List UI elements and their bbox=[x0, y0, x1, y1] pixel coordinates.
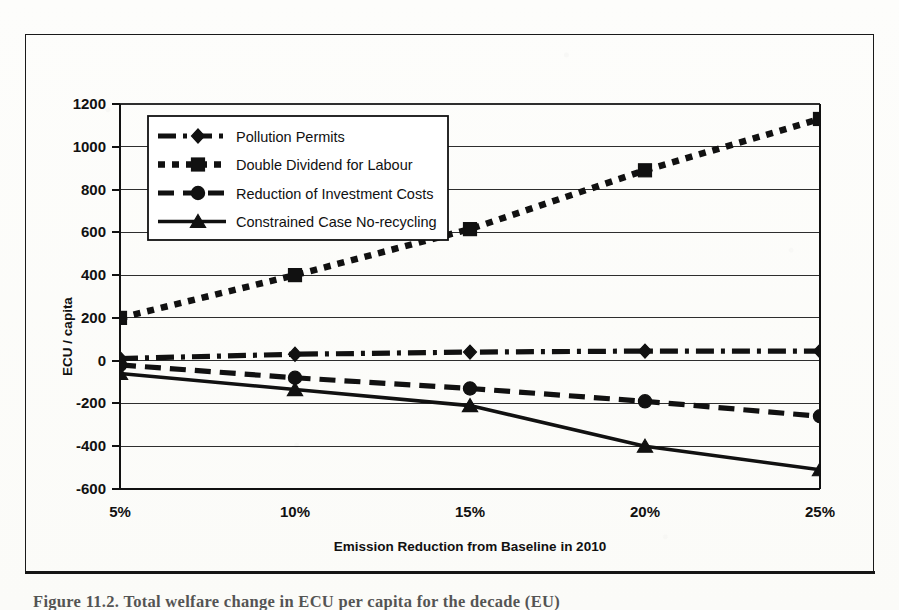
x-axis-title: Emission Reduction from Baseline in 2010 bbox=[334, 539, 606, 554]
data-point-2-2 bbox=[463, 382, 476, 395]
x-tick-label: 10% bbox=[280, 503, 310, 520]
data-point-1-3 bbox=[639, 164, 652, 177]
data-point-2-4 bbox=[813, 410, 826, 423]
legend-label-3: Constrained Case No-recycling bbox=[236, 214, 437, 230]
legend-marker-2 bbox=[191, 186, 204, 199]
x-axis-ticks: 5%10%15%20%25% bbox=[109, 503, 835, 520]
data-point-0-1 bbox=[289, 347, 302, 361]
data-point-1-2 bbox=[464, 223, 477, 236]
data-point-0-3 bbox=[639, 344, 652, 358]
data-point-2-3 bbox=[638, 395, 651, 408]
y-tick-label: 200 bbox=[81, 309, 106, 326]
figure-caption: Figure 11.2. Total welfare change in ECU… bbox=[33, 592, 883, 610]
legend-label-1: Double Dividend for Labour bbox=[236, 157, 413, 173]
y-tick-label: -200 bbox=[76, 394, 106, 411]
x-tick-label: 5% bbox=[109, 503, 131, 520]
y-tick-label: 800 bbox=[81, 181, 106, 198]
y-axis-title: ECU / capita bbox=[60, 297, 75, 376]
y-tick-label: 1000 bbox=[73, 138, 106, 155]
data-point-0-2 bbox=[464, 345, 477, 359]
y-tick-label: 0 bbox=[98, 352, 106, 369]
legend-marker-1 bbox=[192, 158, 205, 171]
line-chart-svg: 120010008006004002000-200-400-600 5%10%1… bbox=[0, 0, 899, 610]
chart-legend: Pollution PermitsDouble Dividend for Lab… bbox=[148, 116, 448, 240]
y-tick-label: -600 bbox=[76, 480, 106, 497]
x-tick-label: 25% bbox=[805, 503, 835, 520]
data-point-1-1 bbox=[289, 269, 302, 282]
x-tick-label: 20% bbox=[630, 503, 660, 520]
y-tick-label: 600 bbox=[81, 223, 106, 240]
y-tick-label: 400 bbox=[81, 266, 106, 283]
legend-label-0: Pollution Permits bbox=[236, 129, 345, 145]
data-point-1-4 bbox=[814, 112, 827, 125]
x-tick-label: 15% bbox=[455, 503, 485, 520]
chart-area: 120010008006004002000-200-400-600 5%10%1… bbox=[0, 0, 899, 610]
y-axis-ticks: 120010008006004002000-200-400-600 bbox=[73, 95, 120, 497]
y-tick-label: -400 bbox=[76, 437, 106, 454]
y-tick-label: 1200 bbox=[73, 95, 106, 112]
data-point-0-4 bbox=[814, 344, 827, 358]
legend-label-2: Reduction of Investment Costs bbox=[236, 186, 433, 202]
